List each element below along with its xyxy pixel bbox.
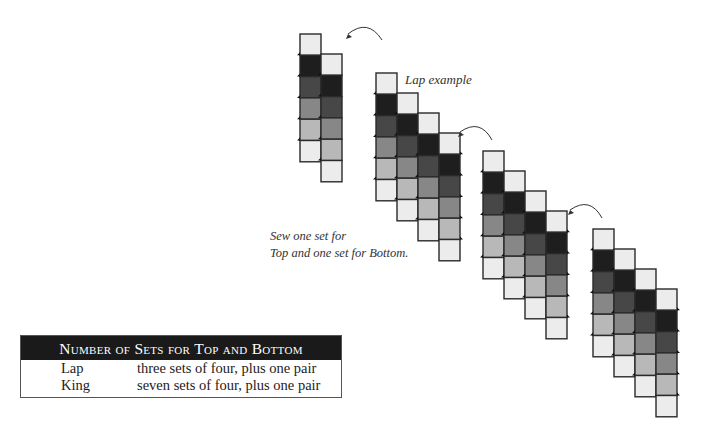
fabric-square-light (656, 374, 677, 395)
fabric-square-dark (321, 97, 342, 118)
fabric-square-light (418, 198, 439, 219)
fabric-square-pale (635, 376, 656, 397)
sew-instruction-caption: Sew one set for Top and one set for Bott… (270, 228, 408, 262)
fabric-square-pale (593, 229, 614, 250)
fabric-square-mid (593, 293, 614, 314)
fabric-square-pale (439, 240, 460, 261)
arrowhead-icon (568, 210, 574, 215)
fabric-square-pale (525, 298, 546, 319)
fabric-square-pale (483, 258, 504, 279)
fabric-square-black (300, 55, 321, 76)
fabric-square-mid (483, 215, 504, 236)
press-direction-icon (590, 290, 593, 293)
fabric-square-pale (376, 73, 397, 94)
fabric-square-dark (525, 234, 546, 255)
strip-column (611, 249, 635, 377)
curved-arrow-icon (460, 127, 492, 140)
sew-caption-line-1: Sew one set for (270, 228, 408, 245)
strip-column (480, 151, 504, 279)
strip-column (318, 54, 342, 182)
press-direction-icon (677, 393, 680, 396)
fabric-square-pale (635, 269, 656, 290)
strip-column (501, 171, 525, 299)
strip-group-set-of-four-2 (480, 151, 570, 339)
fabric-square-black (546, 232, 567, 253)
fabric-square-mid (504, 235, 525, 256)
strip-group-set-of-four-3 (590, 229, 680, 417)
table-title: Number of Sets for Top and Bottom (21, 336, 341, 360)
strip-column (590, 229, 614, 357)
fabric-square-black (321, 75, 342, 96)
press-direction-icon (590, 311, 593, 314)
row-size: Lap (21, 360, 137, 377)
fabric-square-light (439, 218, 460, 239)
fabric-square-pale (504, 278, 525, 299)
fabric-square-dark (635, 312, 656, 333)
fabric-square-light (593, 314, 614, 335)
fabric-square-dark (504, 214, 525, 235)
fabric-square-pale (321, 54, 342, 75)
fabric-square-black (504, 192, 525, 213)
fabric-square-pale (397, 200, 418, 221)
fabric-square-pale (593, 336, 614, 357)
fabric-square-pale (546, 318, 567, 339)
press-direction-icon (677, 307, 680, 310)
fabric-square-dark (439, 176, 460, 197)
fabric-square-mid (300, 98, 321, 119)
fabric-square-dark (614, 292, 635, 313)
fabric-square-pale (300, 34, 321, 55)
fabric-square-black (418, 134, 439, 155)
fabric-square-dark (300, 77, 321, 98)
fabric-square-mid (418, 177, 439, 198)
fabric-square-black (439, 154, 460, 175)
fabric-square-black (656, 310, 677, 331)
sets-table: Number of Sets for Top and Bottom Lap th… (20, 335, 342, 398)
strip-column (522, 191, 546, 319)
strip-column (546, 211, 570, 339)
fabric-square-mid (525, 255, 546, 276)
curved-arrow-icon (570, 205, 602, 218)
fabric-square-pale (656, 396, 677, 417)
fabric-square-black (635, 290, 656, 311)
fabric-square-black (593, 250, 614, 271)
press-direction-icon (590, 333, 593, 336)
fabric-square-pale (321, 161, 342, 182)
fabric-square-dark (376, 116, 397, 137)
fabric-square-mid (376, 137, 397, 158)
fabric-square-dark (546, 254, 567, 275)
fabric-square-pale (525, 191, 546, 212)
fabric-square-dark (656, 332, 677, 353)
press-direction-icon (567, 315, 570, 318)
arrowhead-icon (346, 34, 352, 39)
fabric-square-dark (418, 156, 439, 177)
fabric-square-mid (656, 353, 677, 374)
press-direction-icon (590, 269, 593, 272)
press-direction-icon (567, 293, 570, 296)
fabric-square-pale (397, 93, 418, 114)
row-description: three sets of four, plus one pair (137, 360, 341, 377)
strip-column (394, 93, 418, 221)
strip-column (297, 34, 321, 162)
fabric-square-black (483, 172, 504, 193)
strip-column (439, 133, 463, 261)
fabric-square-pale (483, 151, 504, 172)
fabric-square-black (397, 114, 418, 135)
fabric-square-mid (397, 157, 418, 178)
strip-group-pair (297, 34, 342, 182)
fabric-square-black (525, 212, 546, 233)
strip-column (373, 73, 397, 201)
press-direction-icon (677, 329, 680, 332)
press-direction-icon (567, 272, 570, 275)
fabric-square-mid (439, 197, 460, 218)
fabric-square-light (525, 276, 546, 297)
fabric-square-mid (635, 333, 656, 354)
fabric-square-pale (418, 220, 439, 241)
fabric-square-pale (504, 171, 525, 192)
fabric-square-pale (546, 211, 567, 232)
fabric-square-black (376, 94, 397, 115)
fabric-square-light (483, 236, 504, 257)
row-size: King (21, 377, 137, 394)
fabric-square-pale (614, 356, 635, 377)
table-row: King seven sets of four, plus one pair (21, 377, 341, 394)
strip-column (656, 289, 680, 417)
